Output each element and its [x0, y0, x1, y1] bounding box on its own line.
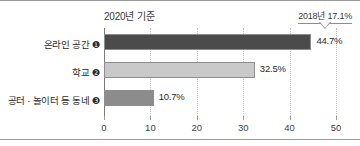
bar-value-label-2: 32.5%: [260, 63, 286, 74]
x-tick-label-40: 40: [284, 122, 295, 133]
chart-title: 2020년 기준: [104, 8, 154, 23]
x-tick-label-0: 0: [101, 122, 106, 133]
category-label-3: 공터 · 놀이터 등 동네 ❸: [8, 93, 100, 107]
x-tick-10: [150, 116, 151, 120]
bar-value-label-1: 44.7%: [316, 35, 342, 46]
bar-row: 32.5%: [104, 62, 336, 78]
bar-row: 10.7%: [104, 90, 336, 106]
figure-top-rule: [0, 0, 360, 1]
x-tick-label-20: 20: [192, 122, 203, 133]
figure-bottom-rule: [0, 139, 360, 140]
x-tick-0: [104, 116, 105, 120]
x-tick-20: [197, 116, 198, 120]
x-tick-40: [290, 116, 291, 120]
bar-2: [104, 62, 255, 78]
bar-chart: 2020년 기준 2018년 17.1% 44.7%32.5%10.7% 온라인…: [0, 0, 360, 146]
plot-area: 44.7%32.5%10.7%: [104, 28, 336, 116]
x-tick-50: [336, 116, 337, 120]
x-tick-label-10: 10: [145, 122, 156, 133]
category-label-1: 온라인 공간 ❶: [44, 37, 100, 51]
x-tick-label-30: 30: [238, 122, 249, 133]
bar-value-label-3: 10.7%: [159, 91, 185, 102]
bar-row: 44.7%: [104, 34, 336, 50]
bar-3: [104, 90, 154, 106]
category-label-2: 학교 ❷: [72, 65, 100, 79]
previous-year-callout: 2018년 17.1%: [298, 9, 352, 24]
bar-1: [104, 34, 311, 50]
x-tick-30: [243, 116, 244, 120]
x-tick-label-50: 50: [331, 122, 342, 133]
